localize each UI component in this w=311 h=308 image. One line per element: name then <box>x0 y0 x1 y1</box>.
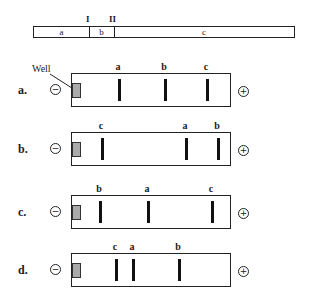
well <box>72 205 81 220</box>
well <box>72 83 81 98</box>
band-label: b <box>175 241 181 252</box>
band-label: a <box>145 183 150 194</box>
gel-label: d. <box>18 263 28 278</box>
dna-band-b <box>178 259 181 281</box>
dna-band-b <box>164 79 167 101</box>
dna-band-b <box>217 138 220 160</box>
band-label: c <box>204 61 208 72</box>
positive-electrode-icon: + <box>238 145 249 156</box>
band-label: c <box>113 241 117 252</box>
dna-band-b <box>99 201 102 223</box>
band-label: c <box>209 183 213 194</box>
negative-electrode-icon: − <box>50 206 61 217</box>
positive-electrode-icon: + <box>238 86 249 97</box>
negative-electrode-icon: − <box>50 264 61 275</box>
gel-lane <box>71 132 231 166</box>
negative-electrode-icon: − <box>50 143 61 154</box>
negative-electrode-icon: − <box>50 84 61 95</box>
band-label: c <box>99 120 103 131</box>
well <box>72 263 81 278</box>
dna-band-c <box>115 259 118 281</box>
positive-electrode-icon: + <box>238 266 249 277</box>
dna-band-c <box>211 201 214 223</box>
band-label: b <box>214 120 220 131</box>
gel-label: a. <box>18 83 27 98</box>
gel-lane <box>71 195 231 229</box>
dna-band-a <box>118 79 121 101</box>
gel-lane <box>71 253 231 287</box>
positive-electrode-icon: + <box>238 208 249 219</box>
gel-lane <box>71 73 231 107</box>
gel-label: c. <box>18 205 26 220</box>
gel-label: b. <box>18 142 28 157</box>
band-label: b <box>96 183 102 194</box>
band-label: b <box>161 61 167 72</box>
band-label: a <box>130 241 135 252</box>
band-label: a <box>183 120 188 131</box>
well <box>72 142 81 157</box>
dna-band-c <box>101 138 104 160</box>
dna-band-a <box>147 201 150 223</box>
dna-band-a <box>132 259 135 281</box>
dna-band-c <box>206 79 209 101</box>
band-label: a <box>116 61 121 72</box>
dna-band-a <box>185 138 188 160</box>
